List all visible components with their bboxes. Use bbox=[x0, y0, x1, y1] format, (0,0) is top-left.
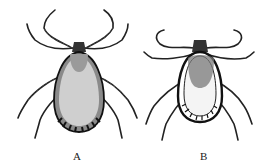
tick-illustration-b bbox=[130, 0, 265, 150]
panel-label-a: A bbox=[73, 150, 81, 162]
tick-illustration-a bbox=[0, 0, 140, 150]
panel-label-b: B bbox=[200, 150, 207, 162]
